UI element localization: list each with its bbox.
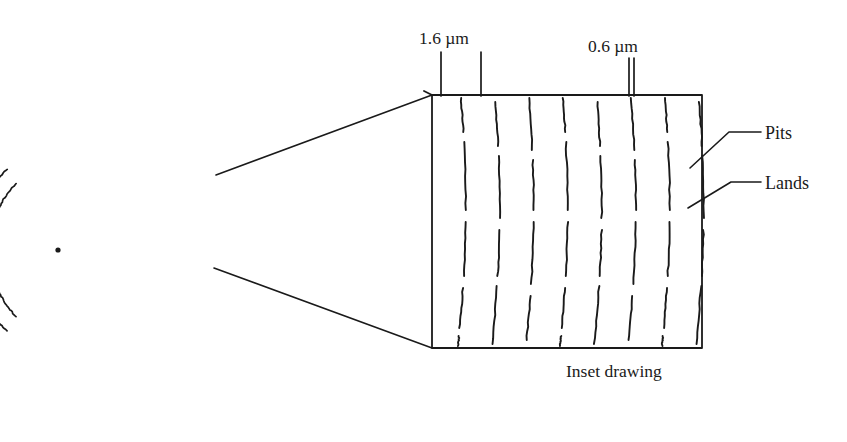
pit-segment-t6-s4 xyxy=(629,296,633,340)
pit-segment-t5-s1 xyxy=(597,102,600,146)
pit-segment-t4-s3 xyxy=(566,222,568,276)
pit-segment-t7-s5 xyxy=(662,336,663,346)
figure-root: 1.6 µm 0.6 µm Pits Lands Inset drawing xyxy=(0,0,847,442)
pit-segment-t4-s4 xyxy=(562,288,565,328)
pit-segment-t1-s5 xyxy=(458,336,459,346)
lands-label: Lands xyxy=(765,173,809,193)
spiral-arc-2 xyxy=(0,169,7,330)
disc-spiral xyxy=(0,96,16,404)
diagram-canvas: 1.6 µm 0.6 µm Pits Lands Inset drawing xyxy=(0,0,847,442)
pit-segment-t1-s3 xyxy=(464,222,466,276)
pits-leader xyxy=(690,132,761,168)
pit-width-label: 0.6 µm xyxy=(588,36,638,56)
pit-segment-t2-s3 xyxy=(497,230,499,276)
pit-segment-t1-s2 xyxy=(464,142,466,210)
pit-segment-t2-s1 xyxy=(495,102,498,146)
magnify-line-top xyxy=(216,95,432,175)
callout-leader-lines xyxy=(688,132,761,208)
track-pitch-label: 1.6 µm xyxy=(419,28,469,48)
pit-segment-t2-s2 xyxy=(499,156,500,218)
magnify-line-bottom xyxy=(214,268,432,348)
figure-caption: Inset drawing xyxy=(566,361,662,381)
pit-segment-t6-s1 xyxy=(631,98,635,150)
pit-track-group xyxy=(458,98,704,346)
spiral-arc-1 xyxy=(0,184,16,317)
pit-segment-t5-s4 xyxy=(594,286,599,344)
pit-segment-t1-s4 xyxy=(459,288,463,328)
pit-segment-t3-s3 xyxy=(531,222,534,284)
dimension-markers xyxy=(441,52,634,96)
pit-segment-t7-s4 xyxy=(664,288,667,328)
pit-segment-t5-s3 xyxy=(600,230,602,276)
pit-segment-t4-s1 xyxy=(563,98,566,132)
pit-segment-t3-s4 xyxy=(527,296,531,340)
pit-segment-t8-s4 xyxy=(697,286,702,344)
pit-segment-t2-s4 xyxy=(493,286,497,344)
pit-segment-t5-s2 xyxy=(600,156,602,218)
pit-segment-t1-s1 xyxy=(461,98,464,132)
pit-segment-t6-s3 xyxy=(633,222,635,284)
pit-segment-t6-s2 xyxy=(635,160,636,210)
lands-leader xyxy=(688,182,761,208)
pit-segment-t7-s3 xyxy=(667,222,669,276)
pit-segment-t4-s5 xyxy=(560,336,562,346)
pits-label: Pits xyxy=(765,123,792,143)
pit-segment-t4-s2 xyxy=(566,142,568,210)
pit-segment-t3-s2 xyxy=(532,160,533,210)
pit-segment-t7-s1 xyxy=(665,98,667,132)
magnification-cone xyxy=(214,95,432,348)
disc-center-dot xyxy=(55,247,60,252)
pit-segment-t3-s1 xyxy=(529,98,532,150)
pit-segment-t7-s2 xyxy=(668,142,670,210)
